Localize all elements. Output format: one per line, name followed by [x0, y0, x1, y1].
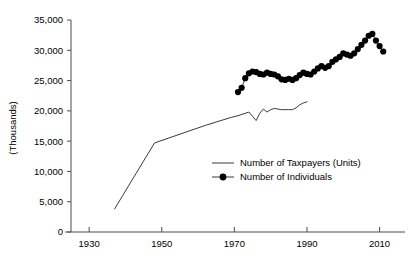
chart-figure: 05,00010,00015,00020,00025,00030,00035,0…	[0, 0, 413, 267]
y-tick-label-group: 05,00010,00015,00020,00025,00030,00035,0…	[34, 14, 63, 237]
y-tick-label: 35,000	[34, 14, 63, 25]
series-number-of-taxpayers	[115, 102, 307, 209]
y-tick-label: 30,000	[34, 45, 63, 56]
data-point-individuals	[380, 48, 386, 54]
data-point-individuals	[369, 31, 375, 37]
x-axis: 19301950197019902010	[65, 227, 405, 249]
y-axis: 05,00010,00015,00020,00025,00030,00035,0…	[34, 14, 71, 237]
y-tick-label: 25,000	[34, 75, 63, 86]
x-tick-label: 1930	[79, 238, 100, 249]
x-tick-label: 1970	[224, 238, 245, 249]
y-tick-label: 5,000	[39, 196, 63, 207]
y-tick-label: 10,000	[34, 166, 63, 177]
y-tick-label: 15,000	[34, 136, 63, 147]
data-point-individuals	[376, 43, 382, 49]
legend-swatch-individuals-marker	[220, 174, 227, 181]
legend-label-taxpayers: Number of Taxpayers (Units)	[240, 157, 361, 168]
series-line-taxpayers	[115, 102, 307, 209]
chart-canvas: 05,00010,00015,00020,00025,00030,00035,0…	[0, 0, 413, 267]
x-tick-label: 2010	[369, 238, 390, 249]
series-number-of-individuals	[235, 31, 386, 95]
data-point-individuals	[373, 37, 379, 43]
legend-label-individuals: Number of Individuals	[240, 171, 332, 182]
x-tick-group	[89, 227, 379, 232]
y-tick-label: 20,000	[34, 105, 63, 116]
y-tick-label: 0	[58, 226, 63, 237]
x-tick-label: 1950	[151, 238, 172, 249]
y-axis-title: (Thousands)	[7, 101, 18, 154]
x-tick-label-group: 19301950197019902010	[79, 238, 391, 249]
x-tick-label: 1990	[296, 238, 317, 249]
y-tick-group	[67, 20, 71, 232]
data-point-individuals	[239, 85, 245, 91]
chart-legend: Number of Taxpayers (Units) Number of In…	[212, 157, 361, 182]
